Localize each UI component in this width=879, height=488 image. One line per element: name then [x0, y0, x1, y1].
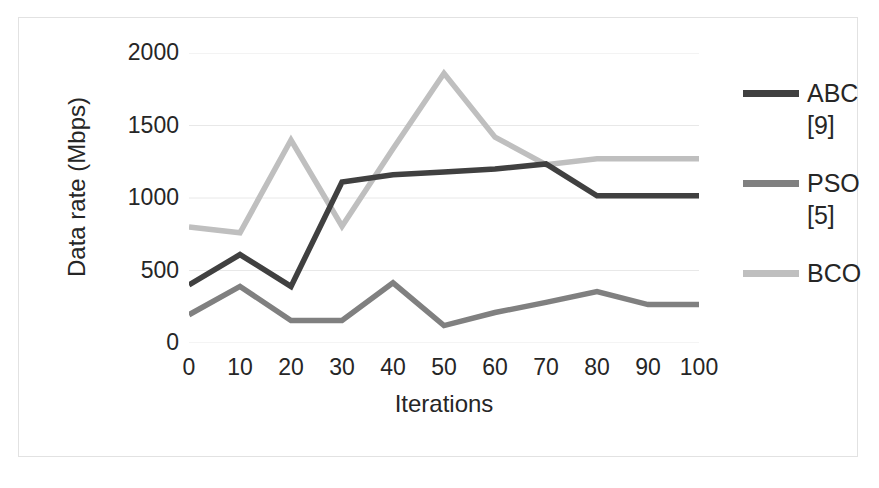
chart-figure: 0500100015002000 0102030405060708090100 …: [0, 0, 879, 488]
legend-swatch-icon: [743, 180, 799, 187]
legend-row: PSO: [743, 166, 879, 200]
legend-row: ABC: [743, 76, 879, 110]
x-tick-label: 30: [329, 354, 355, 381]
y-tick-label: 500: [141, 259, 179, 282]
x-tick-label: 80: [584, 354, 610, 381]
y-tick-label: 1000: [128, 186, 179, 209]
chart-frame: 0500100015002000 0102030405060708090100 …: [18, 17, 858, 457]
x-tick-label: 100: [680, 354, 718, 381]
legend-entry-abc[interactable]: ABC[9]: [743, 76, 879, 140]
y-tick-label: 0: [166, 331, 179, 354]
x-tick-label: 70: [533, 354, 559, 381]
legend-row: BCO: [743, 256, 879, 290]
x-axis-tick-labels: 0102030405060708090100: [189, 354, 699, 384]
series-line-bco: [189, 73, 699, 233]
legend-sublabel: [9]: [807, 110, 879, 140]
series-line-pso: [189, 283, 699, 326]
chart-legend: ABC[9]PSO[5]BCO: [743, 76, 879, 290]
x-tick-label: 0: [183, 354, 196, 381]
x-tick-label: 40: [380, 354, 406, 381]
y-axis-tick-labels: 0500100015002000: [79, 18, 179, 488]
legend-swatch-icon: [743, 270, 799, 277]
series-lines: [189, 73, 699, 325]
x-tick-label: 50: [431, 354, 457, 381]
x-tick-label: 60: [482, 354, 508, 381]
line-chart-svg: [189, 53, 699, 343]
y-axis-title: Data rate (Mbps): [63, 57, 91, 317]
legend-label: PSO: [807, 169, 860, 197]
legend-swatch-icon: [743, 90, 799, 97]
y-tick-label: 2000: [128, 41, 179, 64]
x-tick-label: 20: [278, 354, 304, 381]
legend-label: ABC: [807, 79, 858, 107]
legend-label: BCO: [807, 259, 861, 287]
x-tick-label: 90: [635, 354, 661, 381]
plot-area: [189, 53, 699, 343]
y-tick-label: 1500: [128, 114, 179, 137]
legend-entry-bco[interactable]: BCO: [743, 256, 879, 290]
x-tick-label: 10: [227, 354, 253, 381]
legend-entry-pso[interactable]: PSO[5]: [743, 166, 879, 230]
legend-sublabel: [5]: [807, 200, 879, 230]
x-axis-title: Iterations: [189, 390, 699, 418]
